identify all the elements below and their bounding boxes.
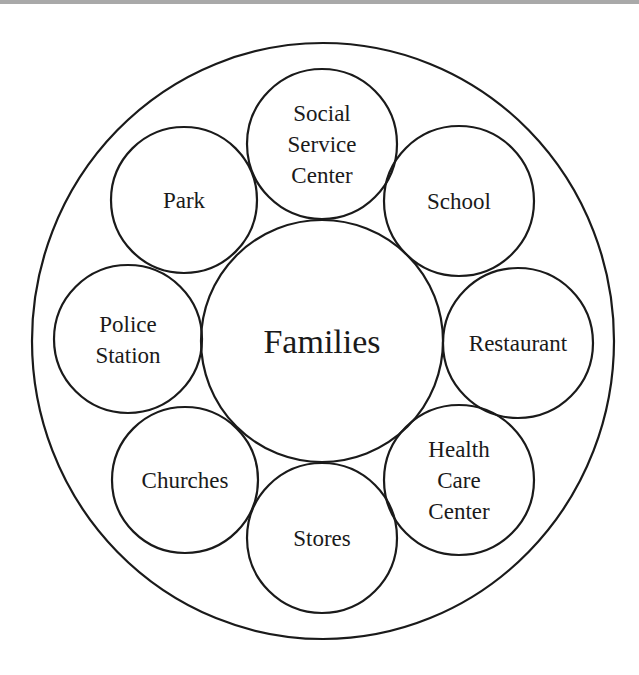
school-label-line: School (427, 189, 491, 214)
restaurant-label-line: Restaurant (469, 331, 568, 356)
node-police-station: PoliceStation (54, 265, 202, 413)
node-stores: Stores (247, 463, 397, 613)
park-label-line: Park (163, 188, 206, 213)
social-service-center-label-line: Service (288, 132, 357, 157)
families-ecomap-diagram: SocialServiceCenterSchoolRestaurantHealt… (0, 0, 639, 675)
node-park: Park (111, 127, 257, 273)
police-station-label-line: Station (95, 343, 161, 368)
social-service-center-label-line: Center (291, 163, 353, 188)
health-care-center-label-line: Care (437, 468, 480, 493)
police-station-circle (54, 265, 202, 413)
node-restaurant: Restaurant (443, 268, 593, 418)
social-service-center-label-line: Social (293, 101, 351, 126)
node-churches: Churches (112, 407, 258, 553)
families-label: Families (263, 323, 380, 360)
health-care-center-label-line: Health (428, 437, 490, 462)
node-social-service-center: SocialServiceCenter (247, 69, 397, 219)
stores-label-line: Stores (293, 526, 351, 551)
health-care-center-label-line: Center (428, 499, 490, 524)
churches-label-line: Churches (142, 468, 229, 493)
police-station-label-line: Police (99, 312, 157, 337)
